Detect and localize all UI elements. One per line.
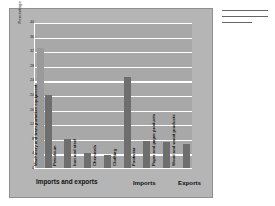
bar-exports <box>143 141 150 168</box>
y-axis-tick-label: 24 <box>24 80 34 84</box>
category-label: Petroleum <box>52 145 57 166</box>
bar-exports <box>183 144 190 168</box>
bar-exports <box>45 95 52 168</box>
category-label: Clothing <box>112 149 117 166</box>
legend-swatch-imports <box>120 179 131 186</box>
y-axis-tick-label: 40 <box>24 21 34 25</box>
legend-swatch-exports <box>165 179 176 186</box>
category-label: Chemicals <box>92 145 97 166</box>
category-label: Paper and paper products <box>151 114 156 166</box>
plot-area: Machinery and transportation equipmentPe… <box>34 23 192 169</box>
bar-group: Chemicals <box>96 23 116 168</box>
bar-exports <box>64 139 71 168</box>
bar-group: Wood and wood products <box>175 23 195 168</box>
y-axis-tick-label: 32 <box>24 50 34 54</box>
legend-and-axis-title-strip: Imports and exports Imports Exports <box>34 175 206 191</box>
x-axis-title: Imports and exports <box>36 178 97 185</box>
category-label: Machinery and transportation equipment <box>33 85 38 166</box>
category-label: Iron and steel <box>72 139 77 166</box>
chart-figure-panel: Percentage of total 0481216202428323640 … <box>9 8 213 198</box>
chart-screenshot: Percentage of total 0481216202428323640 … <box>0 0 275 206</box>
bar-exports <box>84 153 91 168</box>
caption-line <box>222 16 268 17</box>
side-caption-lines <box>222 10 270 36</box>
bar-exports <box>124 77 131 168</box>
y-axis-tick-label: 28 <box>24 65 34 69</box>
bar-series-container: Machinery and transportation equipmentPe… <box>35 23 192 168</box>
legend-label-imports: Imports <box>133 178 156 187</box>
category-label: Wood and wood products <box>171 114 176 166</box>
caption-line <box>222 10 268 11</box>
legend-label-exports: Exports <box>178 178 201 187</box>
y-axis-tick-label: 0 <box>24 167 34 171</box>
bar-exports <box>163 142 170 168</box>
caption-line <box>222 22 252 23</box>
y-axis-tick-label: 36 <box>24 36 34 40</box>
bar-exports <box>104 155 111 168</box>
category-label: Footwear <box>131 147 136 166</box>
bar-imports <box>37 48 44 168</box>
